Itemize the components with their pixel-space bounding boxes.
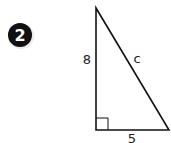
- problem-number-badge: 2: [8, 23, 34, 49]
- right-angle-marker: [96, 118, 108, 130]
- vertical-leg-label: 8: [83, 52, 91, 67]
- right-triangle: [96, 8, 169, 130]
- diagram-canvas: 2 8 c 5: [0, 0, 171, 143]
- hypotenuse-label: c: [133, 51, 140, 66]
- triangle-outline: [96, 8, 169, 130]
- problem-number: 2: [14, 26, 25, 45]
- horizontal-leg-label: 5: [128, 131, 136, 143]
